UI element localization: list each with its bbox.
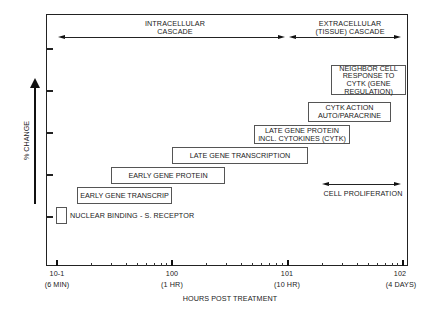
phase-extracellular-label-line2: (TISSUE) CASCADE — [305, 28, 395, 36]
phase-intracellular-label-line2: CASCADE — [135, 28, 215, 36]
cell-proliferation-label: CELL PROLIFERATION — [318, 190, 408, 198]
x-minor-tick — [385, 263, 386, 266]
x-minor-tick — [154, 263, 155, 266]
plot-frame — [46, 14, 408, 266]
arrow-right-icon — [394, 182, 401, 186]
x-minor-tick — [111, 263, 112, 266]
x-major-tick — [287, 260, 289, 266]
nuclear-binding-box — [56, 207, 67, 224]
x-tick-sublabel: (4 DAYS) — [376, 281, 426, 289]
x-minor-tick — [161, 263, 162, 266]
x-minor-tick — [282, 263, 283, 266]
x-minor-tick — [226, 263, 227, 266]
x-minor-tick — [91, 263, 92, 266]
x-minor-tick — [241, 263, 242, 266]
x-major-tick — [402, 260, 404, 266]
intracellular-span-line — [64, 37, 280, 38]
event-cytk-action: CYTK ACTION AUTO/PARACRINE — [308, 102, 391, 122]
x-tick-label: 10-1 — [37, 270, 77, 278]
x-minor-tick — [126, 263, 127, 266]
x-minor-tick — [397, 263, 398, 266]
event-early-gene-protein: EARLY GENE PROTEIN — [111, 167, 225, 184]
y-axis-up-arrow — [34, 86, 36, 204]
event-nuclear-binding: NUCLEAR BINDING - S. RECEPTOR — [70, 212, 200, 220]
x-minor-tick — [377, 263, 378, 266]
x-minor-tick — [368, 263, 369, 266]
x-tick-sublabel: (6 MIN) — [33, 281, 81, 289]
x-minor-tick — [322, 263, 323, 266]
x-tick-sublabel: (10 HR) — [262, 281, 312, 289]
x-tick-label: 101 — [267, 270, 307, 278]
x-minor-tick — [166, 263, 167, 266]
x-minor-tick — [206, 263, 207, 266]
x-major-tick — [56, 260, 58, 266]
y-axis-label: % CHANGE — [22, 111, 31, 171]
x-axis-label: HOURS POST TREATMENT — [160, 295, 300, 303]
extracellular-span-line — [295, 37, 395, 38]
x-minor-tick — [146, 263, 147, 266]
x-tick-sublabel: (1 HR) — [148, 281, 196, 289]
arrow-right-icon — [278, 35, 285, 39]
x-major-tick — [171, 260, 173, 266]
arrow-right-icon — [394, 35, 401, 39]
x-minor-tick — [342, 263, 343, 266]
event-early-gene-transcrip: EARLY GENE TRANSCRIP — [77, 187, 172, 204]
event-late-gene-protein: LATE GENE PROTEIN INCL. CYTOKINES (CYTK) — [254, 125, 350, 144]
x-minor-tick — [137, 263, 138, 266]
x-minor-tick — [392, 263, 393, 266]
event-neighbor-cell-response: NEIGHBOR CELL RESPONSE TO CYTK (GENE REG… — [331, 65, 406, 95]
x-minor-tick — [261, 263, 262, 266]
x-tick-label: 100 — [152, 270, 192, 278]
x-tick-label: 102 — [380, 270, 420, 278]
y-tick — [46, 216, 53, 218]
y-tick — [46, 48, 53, 50]
x-minor-tick — [357, 263, 358, 266]
event-late-gene-transcription: LATE GENE TRANSCRIPTION — [172, 147, 308, 164]
cell-proliferation-span-line — [328, 184, 395, 185]
y-tick — [46, 90, 53, 92]
x-minor-tick — [276, 263, 277, 266]
y-tick — [46, 174, 53, 176]
x-minor-tick — [252, 263, 253, 266]
y-tick — [46, 132, 53, 134]
x-minor-tick — [269, 263, 270, 266]
